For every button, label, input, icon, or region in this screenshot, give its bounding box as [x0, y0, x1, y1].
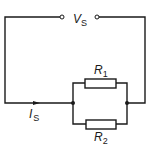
current-label: IS [29, 107, 39, 123]
junction-right [125, 101, 129, 105]
wire-right [99, 17, 145, 103]
resistor-r2 [86, 120, 116, 129]
source-label: VS [73, 12, 87, 28]
resistor-r2-label: R2 [94, 130, 108, 146]
resistor-r1-label: R1 [94, 63, 108, 79]
resistor-r1 [85, 79, 116, 88]
current-arrow-icon [33, 101, 40, 105]
junction-left [71, 101, 75, 105]
circuit-diagram: VS IS R1 R2 [0, 0, 157, 147]
source-terminal-left [60, 15, 64, 19]
source-terminal-right [95, 15, 99, 19]
wire-left [5, 17, 73, 103]
